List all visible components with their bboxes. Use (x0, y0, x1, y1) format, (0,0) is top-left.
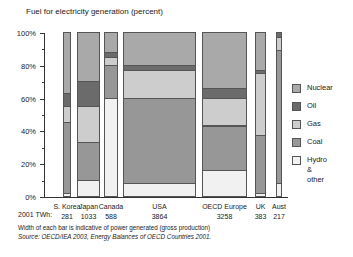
segment-gas (77, 106, 100, 143)
segment-hydro (276, 183, 282, 197)
y-tick (42, 82, 44, 83)
y-tick (42, 181, 44, 182)
category-label: OECD Europe (202, 203, 247, 210)
category-label: Aust (272, 203, 286, 210)
y-tick (40, 66, 44, 67)
segment-coal (104, 65, 118, 99)
segment-coal (255, 135, 266, 193)
segment-hydro (202, 170, 247, 197)
segment-gas (255, 73, 266, 136)
bar-japan (77, 33, 100, 197)
y-tick (40, 197, 44, 198)
y-tick (40, 131, 44, 132)
twh-value: 1033 (81, 213, 97, 220)
segment-nuclear (123, 32, 196, 66)
y-tick (40, 164, 44, 165)
y-tick-label: 80% (21, 61, 36, 70)
segment-hydro (123, 183, 196, 197)
segment-nuclear (104, 32, 118, 53)
y-tick-label: 100% (17, 29, 36, 38)
segment-nuclear (202, 32, 247, 89)
segment-hydro (104, 98, 118, 197)
chart-title: Fuel for electricity generation (percent… (26, 7, 163, 16)
category-label: S. Korea (53, 203, 80, 210)
y-tick (42, 148, 44, 149)
gas-swatch (292, 120, 301, 129)
twh-value: 217 (273, 213, 285, 220)
bar-oecd-europe (202, 33, 247, 197)
oil-swatch (292, 102, 301, 111)
bar-uk (255, 33, 266, 197)
segment-gas (123, 70, 196, 99)
segment-oil (202, 88, 247, 99)
y-tick (42, 49, 44, 50)
segment-oil (77, 81, 100, 107)
segment-oil (276, 32, 282, 38)
segment-oil (63, 93, 71, 107)
segment-coal (123, 98, 196, 184)
chart-source: Source: OECD/IEA 2003, Energy Balances o… (18, 233, 211, 240)
bar-usa (123, 33, 196, 197)
twh-value: 383 (255, 213, 267, 220)
hydro-swatch (292, 156, 301, 165)
category-label: UK (256, 203, 266, 210)
segment-coal (276, 50, 282, 184)
segment-gas (63, 106, 71, 123)
y-axis (44, 33, 45, 198)
y-tick (40, 33, 44, 34)
y-tick (40, 99, 44, 100)
y-tick-label: 0% (25, 193, 36, 202)
chart-note: Width of each bar is indicative of power… (18, 224, 210, 231)
twh-value: 588 (105, 213, 117, 220)
y-tick-label: 40% (21, 127, 36, 136)
segment-nuclear (77, 32, 100, 82)
segment-nuclear (63, 32, 71, 94)
segment-nuclear (255, 32, 266, 71)
x-axis (44, 197, 288, 198)
twh-value: 3864 (152, 213, 168, 220)
segment-gas (276, 37, 282, 51)
segment-coal (77, 142, 100, 181)
y-tick-label: 60% (21, 94, 36, 103)
category-label: Canada (99, 203, 124, 210)
coal-swatch (292, 138, 301, 147)
nuclear-swatch (292, 84, 301, 93)
bar-canada (104, 33, 118, 197)
segment-hydro (77, 180, 100, 197)
category-label: Japan (79, 203, 98, 210)
twh-value: 281 (61, 213, 73, 220)
y-tick-label: 20% (21, 160, 36, 169)
category-label: USA (152, 203, 166, 210)
bar-s-korea (63, 33, 71, 197)
segment-coal (202, 126, 247, 171)
bar-aust (276, 33, 282, 197)
twh-label: 2001 TWh: (18, 211, 52, 218)
twh-value: 3258 (217, 213, 233, 220)
y-tick (42, 115, 44, 116)
segment-gas (202, 98, 247, 127)
segment-coal (63, 122, 71, 194)
segment-gas (104, 57, 118, 66)
